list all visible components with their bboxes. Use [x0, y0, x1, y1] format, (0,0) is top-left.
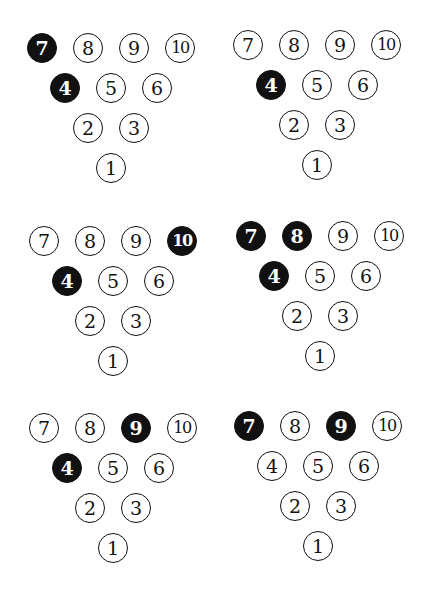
pin-2-icon: 2: [73, 113, 103, 143]
pin-6-icon: 6: [144, 453, 174, 483]
pin-8-icon: 8: [279, 30, 309, 60]
pin-8-icon: 8: [73, 33, 103, 63]
pin-9-icon: 9: [119, 33, 149, 63]
pin-10-icon: 10: [165, 33, 195, 63]
pin-7-icon: 7: [29, 226, 59, 256]
pin-1-icon: 1: [302, 150, 332, 180]
pin-1-icon: 1: [98, 533, 128, 563]
pin-7-icon: 7: [29, 413, 59, 443]
pin-10-icon: 10: [371, 30, 401, 60]
pin-4-filled-icon: 4: [256, 70, 286, 100]
pin-2-icon: 2: [75, 493, 105, 523]
pin-1-icon: 1: [96, 153, 126, 183]
pin-8-icon: 8: [75, 226, 105, 256]
pin-5-icon: 5: [303, 451, 333, 481]
pin-5-icon: 5: [98, 453, 128, 483]
pin-9-filled-icon: 9: [326, 411, 356, 441]
pin-2-icon: 2: [279, 110, 309, 140]
pin-6-icon: 6: [142, 73, 172, 103]
pin-4-filled-icon: 4: [52, 453, 82, 483]
pin-5-icon: 5: [96, 73, 126, 103]
pin-3-icon: 3: [325, 110, 355, 140]
pin-9-icon: 9: [328, 221, 358, 251]
pin-7-icon: 7: [233, 30, 263, 60]
pin-5-icon: 5: [302, 70, 332, 100]
pin-4-filled-icon: 4: [52, 266, 82, 296]
pin-2-icon: 2: [280, 491, 310, 521]
pin-7-filled-icon: 7: [236, 221, 266, 251]
pin-4-icon: 4: [257, 451, 287, 481]
pin-1-icon: 1: [303, 531, 333, 561]
pin-5-icon: 5: [98, 266, 128, 296]
pin-7-filled-icon: 7: [234, 411, 264, 441]
pin-6-icon: 6: [349, 451, 379, 481]
pin-3-icon: 3: [326, 491, 356, 521]
pin-4-filled-icon: 4: [259, 261, 289, 291]
pin-7-filled-icon: 7: [27, 33, 57, 63]
pin-1-icon: 1: [305, 341, 335, 371]
pin-6-icon: 6: [348, 70, 378, 100]
pin-3-icon: 3: [328, 301, 358, 331]
pin-10-icon: 10: [167, 413, 197, 443]
pin-diagram-grid: 1234567891012345678910123456789101234567…: [0, 0, 427, 595]
pin-8-filled-icon: 8: [282, 221, 312, 251]
pin-10-icon: 10: [374, 221, 404, 251]
pin-5-icon: 5: [305, 261, 335, 291]
pin-2-icon: 2: [282, 301, 312, 331]
pin-1-icon: 1: [98, 346, 128, 376]
pin-2-icon: 2: [75, 306, 105, 336]
pin-6-icon: 6: [351, 261, 381, 291]
pin-4-filled-icon: 4: [50, 73, 80, 103]
pin-10-icon: 10: [372, 411, 402, 441]
pin-8-icon: 8: [280, 411, 310, 441]
pin-9-filled-icon: 9: [121, 413, 151, 443]
pin-10-filled-icon: 10: [167, 226, 197, 256]
pin-3-icon: 3: [121, 493, 151, 523]
pin-6-icon: 6: [144, 266, 174, 296]
pin-9-icon: 9: [325, 30, 355, 60]
pin-3-icon: 3: [121, 306, 151, 336]
pin-3-icon: 3: [119, 113, 149, 143]
pin-8-icon: 8: [75, 413, 105, 443]
pin-9-icon: 9: [121, 226, 151, 256]
